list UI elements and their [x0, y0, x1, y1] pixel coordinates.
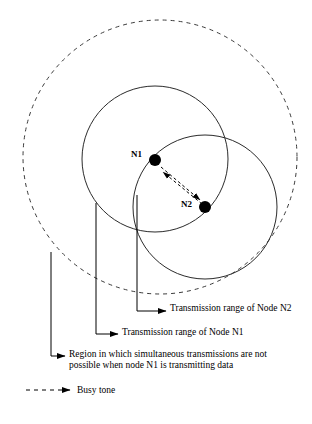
leader-n2-range: [137, 195, 166, 311]
network-topology-diagram: N1 N2 Transmission range of Node N2 Tran…: [0, 0, 312, 424]
leader-n1-range: [96, 203, 118, 334]
callout-n2-transmission-range: Transmission range of Node N2: [170, 303, 292, 314]
node-n1-label: N1: [131, 149, 142, 159]
node-n2-label: N2: [181, 199, 192, 209]
arrow-n1-to-n2: [161, 167, 200, 200]
leader-region: [51, 252, 65, 356]
node-n1-dot: [149, 154, 161, 166]
callout-n1-transmission-range: Transmission range of Node N1: [122, 327, 244, 338]
node-n2-dot: [199, 201, 211, 213]
callout-simultaneous-transmission-region: Region in which simultaneous transmissio…: [69, 349, 307, 370]
legend-busy-tone-label: Busy tone: [77, 385, 115, 396]
